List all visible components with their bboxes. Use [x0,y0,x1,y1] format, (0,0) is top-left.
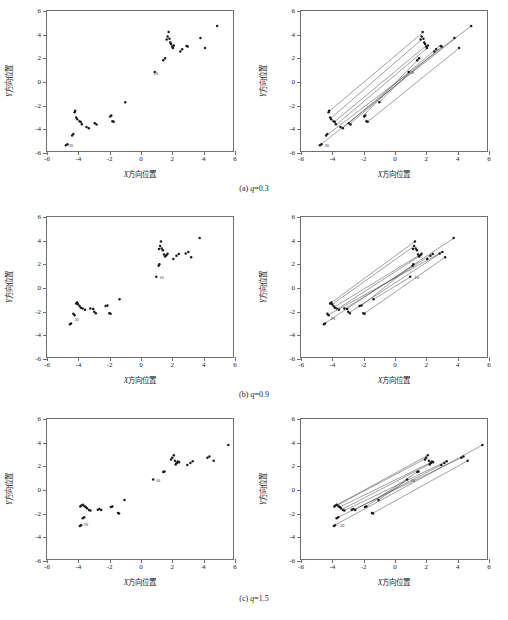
y-axis-tick [43,106,47,107]
data-point [75,116,77,118]
y-axis-title-text: 方向位置 [5,65,14,93]
data-point [199,37,201,39]
y-axis-tick-label: -6 [35,356,41,363]
data-point [435,48,437,50]
plot-area-b-right: 10206420-2-4-6-6-4-20246 [300,216,488,358]
data-point [426,47,428,49]
y-axis-tick [297,537,301,538]
plot-panel-a-right: 10206420-2-4-6-6-4-20246X方向位置Y方向位置 [254,0,508,180]
y-axis-title-text: 方向位置 [259,65,268,93]
y-axis-tick-label: 0 [292,79,296,86]
data-point [178,253,180,255]
x-axis-tick-label: -6 [298,564,304,571]
data-point [422,38,424,40]
data-point [342,509,344,511]
y-axis-tick [43,312,47,313]
data-point [351,509,353,511]
point-annotation: 10 [411,478,415,483]
data-point [420,35,422,37]
plot-canvas-c-right: 1020 [301,419,487,559]
y-axis-title-text: 方向位置 [5,473,14,501]
data-point [109,115,111,117]
y-axis-tick-label: 4 [38,31,42,38]
data-point [426,258,428,260]
data-point [73,111,75,113]
y-axis-tick-label: 4 [292,439,296,446]
data-point [432,461,434,463]
data-point [326,313,328,315]
x-axis-tick-label: 2 [171,156,175,163]
x-axis-tick-label: 4 [202,362,206,369]
x-axis-tick-label: -6 [298,156,304,163]
data-point [425,457,427,459]
data-point [453,37,455,39]
caption-value: 0.3 [259,184,269,193]
y-axis-tick-label: 0 [292,487,296,494]
connector-line [334,445,482,525]
y-axis-tick-label: 4 [38,439,42,446]
data-point [81,517,83,519]
data-point [152,478,154,480]
point-annotation: 10 [410,70,414,75]
data-point [117,512,119,514]
data-point [78,120,80,122]
y-axis-title: Y方向位置 [3,473,14,505]
data-point [69,323,71,325]
data-point [204,47,206,49]
figure-row-2: 10206420-2-4-6-6-4-20246X方向位置Y方向位置102064… [0,206,508,408]
x-axis-title-text: 方向位置 [128,376,156,385]
x-axis-tick-label: -2 [361,564,367,571]
connector-line [379,72,409,102]
data-point [164,57,166,59]
y-axis-title-symbol: Y [259,299,268,303]
plot-canvas-a-left: 1020 [47,11,233,151]
y-axis-tick-label: 6 [292,8,296,15]
y-axis-tick-label: 4 [292,31,296,38]
figure-root: 10206420-2-4-6-6-4-20246X方向位置Y方向位置102064… [0,0,508,620]
caption-index: (b) [239,390,248,399]
y-axis-tick [43,419,47,420]
y-axis-tick [43,58,47,59]
data-point [362,312,364,314]
y-axis-tick-label: 2 [292,261,296,268]
data-point [212,460,214,462]
x-axis-tick-label: 6 [487,156,491,163]
point-annotation: 10 [156,478,160,483]
data-point [413,245,415,247]
data-point [111,120,113,122]
x-axis-title-text: 方向位置 [128,170,156,179]
data-point [181,48,183,50]
data-point [462,455,464,457]
data-point [65,144,67,146]
y-axis-title-text: 方向位置 [5,271,14,299]
data-point [184,252,186,254]
y-axis-title-symbol: Y [5,501,14,505]
y-axis-tick [43,129,47,130]
x-axis-title: X方向位置 [46,374,234,385]
x-axis-tick-label: 6 [233,156,237,163]
y-axis-tick-label: 2 [38,261,42,268]
y-axis-tick-label: -2 [289,308,295,315]
point-annotation: 10 [159,275,163,280]
x-axis-tick-label: 4 [456,156,460,163]
plot-panel-c-right: 10206420-2-4-6-6-4-20246X方向位置Y方向位置 [254,408,508,588]
data-point [171,457,173,459]
x-axis-title: X方向位置 [300,168,488,179]
data-point [79,525,81,527]
y-axis-title-symbol: Y [259,93,268,97]
point-annotation: 20 [84,522,88,527]
y-axis-tick-label: 2 [292,55,296,62]
caption-index: (c) [239,594,248,603]
x-axis-tick-label: 0 [139,564,143,571]
x-axis-tick-label: 4 [202,564,206,571]
subfigure-caption-1: (a) q=0.3 [0,184,508,193]
y-axis-tick-label: 2 [38,463,42,470]
x-axis-title: X方向位置 [46,168,234,179]
subfigure-caption-2: (b) q=0.9 [0,390,508,399]
data-point [172,47,174,49]
y-axis-tick [297,514,301,515]
data-point [84,309,86,311]
data-point [433,50,435,52]
data-point [81,123,83,125]
data-point [432,253,434,255]
